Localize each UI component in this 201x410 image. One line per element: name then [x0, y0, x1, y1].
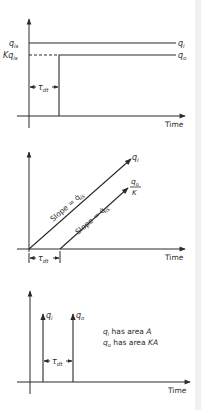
dead-time-marker: τdt — [29, 251, 60, 264]
output-curve-label: qo — [178, 51, 187, 61]
dead-time-label: τdt — [38, 254, 49, 264]
impulse-response-panel: Time qi qo τdt qi has area A qo has area… — [17, 291, 190, 395]
input-slope-label: Slope = q̇is — [48, 190, 86, 225]
input-curve-label: qi — [132, 153, 139, 163]
time-axis-label: Time — [164, 120, 184, 129]
output-area-note: qo has area KA — [103, 338, 158, 348]
step-response-panel: Time qis Kqis qi qo τdt — [3, 19, 187, 129]
time-axis-label: Time — [167, 386, 187, 395]
dead-time-label: τdt — [38, 83, 49, 93]
dead-time-marker: τdt — [44, 357, 72, 367]
dead-time-response-diagram: Time qis Kqis qi qo τdt Time Slope = q̇i… — [0, 0, 201, 410]
ramp-response-panel: Time Slope = q̇is Slope = q̇is qi qo K τ… — [17, 152, 185, 264]
input-area-note: qi has area A — [103, 327, 151, 337]
output-curve-label: qo — [76, 311, 85, 321]
output-slope-label: Slope = q̇is — [73, 203, 111, 238]
time-axis-label: Time — [164, 253, 184, 262]
y-tick-qis: qis — [9, 39, 19, 49]
dead-time-marker: τdt — [30, 83, 58, 93]
input-curve-label: qi — [178, 39, 185, 49]
output-step-line — [59, 55, 176, 116]
output-curve-label: qo K — [130, 177, 141, 197]
dead-time-label: τdt — [52, 357, 63, 367]
svg-text:K: K — [132, 189, 138, 197]
y-tick-kqis: Kqis — [3, 51, 18, 61]
input-curve-label: qi — [46, 311, 53, 321]
svg-text:qo: qo — [131, 177, 139, 187]
